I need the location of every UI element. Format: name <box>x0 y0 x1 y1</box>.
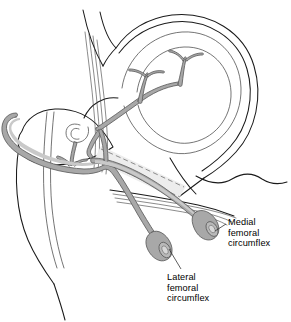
label-medial-femoral-circumflex: Medial femoral circumflex <box>228 217 270 249</box>
label-lateral-line-1: Lateral <box>167 272 209 283</box>
ilium-outer-contour <box>100 12 258 178</box>
label-medial-line-2: femoral <box>228 228 270 239</box>
retinacular-branch-left-tip-b <box>147 71 165 77</box>
hip-anatomy-svg <box>0 0 291 322</box>
anatomical-figure: Medial femoral circumflex Lateral femora… <box>0 0 291 322</box>
label-medial-line-1: Medial <box>228 217 270 228</box>
leader-lateral <box>169 249 181 269</box>
label-lateral-line-3: circumflex <box>167 293 209 304</box>
inferior-pubic-ramus <box>196 174 287 184</box>
retinacular-branch-right-tip-b <box>186 53 204 61</box>
label-lateral-femoral-circumflex: Lateral femoral circumflex <box>167 272 209 304</box>
label-lateral-line-2: femoral <box>167 283 209 294</box>
label-medial-line-3: circumflex <box>228 238 270 249</box>
psoas-notch <box>103 48 116 66</box>
retinacular-branch-right-fork <box>178 57 186 86</box>
femur-shaft-medial <box>54 284 65 320</box>
retinacular-branch-right-tip-a <box>169 50 185 61</box>
retinacular-branch-left-tip-a <box>129 69 147 77</box>
retinacular-branch-main <box>96 82 180 131</box>
